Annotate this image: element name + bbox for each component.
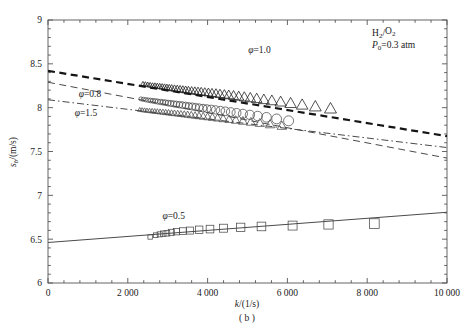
y-tick-label: 7 bbox=[37, 191, 42, 201]
chart-canvas: 02 0004 0006 0008 00010 000 66.577.588.5… bbox=[0, 0, 466, 327]
x-axis-title: k/(1/s) bbox=[235, 299, 259, 310]
figure-caption: ( b ) bbox=[239, 313, 255, 324]
y-tick-label: 6 bbox=[37, 278, 42, 288]
data-point-phi=1.0 bbox=[296, 99, 308, 109]
x-tick-label: 8 000 bbox=[357, 288, 379, 298]
data-point-phi=0.5 bbox=[196, 226, 203, 233]
data-point-phi=0.5 bbox=[187, 227, 194, 234]
fit-line-phi=1.0 bbox=[48, 71, 447, 136]
data-point-phi=1.0 bbox=[309, 101, 321, 111]
data-point-phi=0.5 bbox=[288, 221, 297, 230]
data-point-phi=0.8 bbox=[272, 114, 282, 124]
y-tick-labels: 66.577.588.59 bbox=[30, 15, 42, 288]
mixture-annotation: H2/O2 bbox=[372, 26, 396, 41]
data-point-phi=0.5 bbox=[148, 235, 152, 239]
data-point-phi=0.5 bbox=[206, 225, 214, 233]
y-tick-label: 6.5 bbox=[30, 235, 42, 245]
fit-line-phi=0.8 bbox=[48, 82, 447, 158]
data-point-phi=1.0 bbox=[251, 93, 262, 102]
y-axis-title: sb/(m/s) bbox=[8, 137, 20, 167]
series-label-phi=1.5: φ=1.5 bbox=[75, 108, 98, 118]
data-point-phi=0.8 bbox=[284, 116, 294, 126]
data-point-phi=0.5 bbox=[220, 224, 228, 232]
data-point-phi=1.0 bbox=[245, 92, 256, 101]
y-tick-label: 8 bbox=[37, 103, 42, 113]
fit-lines bbox=[48, 71, 447, 243]
x-tick-label: 4 000 bbox=[197, 288, 219, 298]
pressure-annotation: P0=0.3 atm bbox=[371, 40, 416, 52]
y-tick-label: 7.5 bbox=[30, 147, 42, 157]
series-label-phi=0.8: φ=0.8 bbox=[79, 89, 102, 99]
y-tick-label: 9 bbox=[37, 15, 42, 25]
x-tick-labels: 02 0004 0006 0008 00010 000 bbox=[46, 288, 461, 298]
series-label-phi=0.5: φ=0.5 bbox=[162, 211, 185, 221]
x-tick-label: 0 bbox=[46, 288, 51, 298]
data-point-phi=0.5 bbox=[370, 219, 380, 229]
fit-line-phi=0.5 bbox=[48, 212, 447, 242]
x-tick-label: 10 000 bbox=[434, 288, 460, 298]
y-tick-label: 8.5 bbox=[30, 59, 42, 69]
figure-container: 02 0004 0006 0008 00010 000 66.577.588.5… bbox=[0, 0, 466, 327]
series-inline-labels: φ=1.0φ=0.8φ=1.5φ=0.5 bbox=[75, 45, 271, 221]
x-tick-label: 6 000 bbox=[277, 288, 299, 298]
axis-ticks bbox=[48, 20, 447, 283]
data-point-phi=0.8 bbox=[232, 108, 241, 117]
data-point-phi=0.5 bbox=[180, 228, 187, 235]
x-tick-label: 2 000 bbox=[117, 288, 139, 298]
data-point-phi=1.0 bbox=[325, 102, 337, 113]
plot-frame bbox=[48, 20, 447, 283]
series-label-phi=1.0: φ=1.0 bbox=[248, 45, 271, 55]
